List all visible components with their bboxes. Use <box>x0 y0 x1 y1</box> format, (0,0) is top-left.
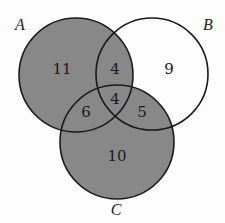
region-a-b: 4 <box>110 60 120 78</box>
set-a-label: A <box>14 16 25 33</box>
venn-svg: A B C 11 4 9 4 6 5 10 <box>0 0 225 223</box>
region-b-c: 5 <box>137 103 147 121</box>
region-c-only: 10 <box>107 147 126 165</box>
region-b-only: 9 <box>164 60 174 78</box>
venn-diagram: A B C 11 4 9 4 6 5 10 <box>0 0 225 223</box>
region-a-c: 6 <box>81 103 91 121</box>
set-b-label: B <box>203 16 213 33</box>
region-a-only: 11 <box>52 60 71 78</box>
region-a-b-c: 4 <box>110 90 120 108</box>
set-c-label: C <box>111 201 122 218</box>
